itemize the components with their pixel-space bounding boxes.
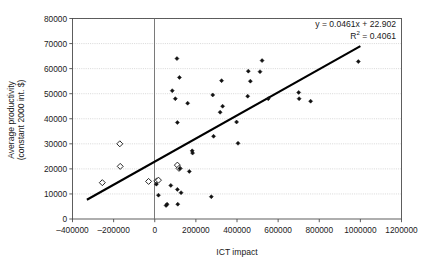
data-point-filled: [212, 134, 216, 138]
data-point-filled: [220, 79, 224, 83]
data-point-filled: [175, 187, 179, 191]
y-tick-label: 60000: [44, 64, 67, 74]
data-point-filled: [248, 79, 252, 83]
data-point-filled: [258, 70, 262, 74]
data-point-open: [117, 163, 123, 169]
data-point-filled: [356, 60, 360, 64]
x-tick-label: –200000: [97, 225, 130, 235]
data-point-filled: [246, 69, 250, 73]
data-point-filled: [297, 97, 301, 101]
y-axis-title-line2: (constant 2000 int. $): [16, 79, 26, 160]
y-tick-label: 20000: [44, 164, 67, 174]
x-tick-label: 400000: [223, 225, 251, 235]
y-axis-title: Average productivity (constant 2000 int.…: [6, 79, 26, 160]
x-tick-label: 1200000: [385, 225, 418, 235]
x-axis-title: ICT impact: [216, 247, 258, 257]
data-point-filled: [175, 121, 179, 125]
x-tick-label: 1000000: [344, 225, 377, 235]
trendline: [87, 46, 360, 200]
data-point-open: [146, 178, 152, 184]
data-point-filled: [218, 110, 222, 114]
y-tick-label: 0: [62, 214, 67, 224]
data-point-filled: [169, 183, 173, 187]
y-tick-label: 80000: [44, 14, 67, 24]
x-axis-tick-labels: –400000–20000002000004000006000008000001…: [56, 225, 418, 235]
y-tick-label: 40000: [44, 114, 67, 124]
data-point-filled: [170, 89, 174, 93]
data-point-filled: [173, 97, 177, 101]
y-axis-ticks: [69, 19, 72, 220]
data-point-filled: [187, 169, 191, 173]
data-point-filled: [246, 94, 250, 98]
data-point-filled: [175, 57, 179, 61]
data-point-open: [99, 180, 105, 186]
data-point-filled: [235, 120, 239, 124]
y-tick-label: 10000: [44, 189, 67, 199]
x-tick-label: 600000: [264, 225, 292, 235]
regression-equation-label: y = 0.0461x + 22.902: [315, 19, 396, 29]
r-squared-value: = 0.4061: [360, 31, 396, 41]
x-tick-label: –400000: [56, 225, 89, 235]
scatter-chart: –400000–20000002000004000006000008000001…: [0, 0, 434, 263]
data-point-open: [117, 141, 123, 147]
r-squared-label: R2 = 0.4061: [350, 29, 396, 40]
chart-canvas: –400000–20000002000004000006000008000001…: [0, 0, 434, 263]
x-tick-label: 800000: [305, 225, 333, 235]
data-point-filled: [221, 104, 225, 108]
data-point-filled: [186, 101, 190, 105]
y-axis-tick-labels: 0100002000030000400005000060000700008000…: [44, 14, 67, 225]
x-tick-label: 200000: [182, 225, 210, 235]
x-tick-label: 0: [152, 225, 157, 235]
data-point-filled: [209, 195, 213, 199]
y-tick-label: 30000: [44, 139, 67, 149]
data-point-filled: [179, 191, 183, 195]
data-points: [99, 57, 360, 208]
data-point-filled: [236, 141, 240, 145]
x-axis-ticks: [73, 219, 402, 222]
y-tick-label: 50000: [44, 89, 67, 99]
data-point-filled: [177, 75, 181, 79]
data-point-filled: [176, 202, 180, 206]
y-tick-label: 70000: [44, 39, 67, 49]
data-point-filled: [260, 59, 264, 63]
data-point-filled: [309, 99, 313, 103]
y-axis-title-line1: Average productivity: [6, 80, 16, 158]
